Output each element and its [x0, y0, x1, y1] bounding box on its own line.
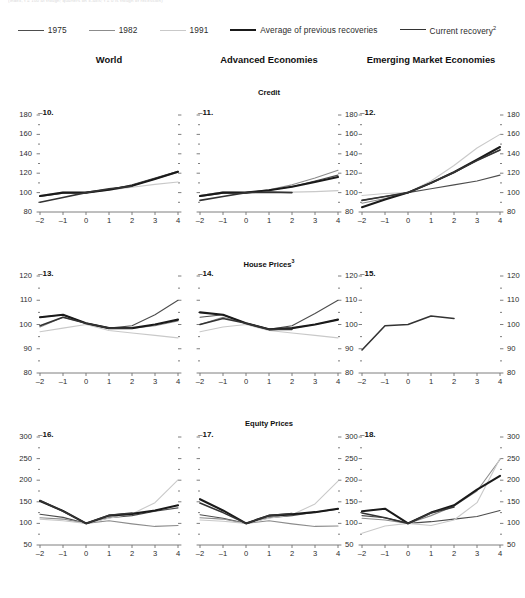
- x-axis-tick-label: 0: [401, 377, 415, 386]
- legend-item-1975: 1975: [18, 25, 67, 35]
- x-axis-tick-label: –2: [193, 216, 207, 225]
- y-axis-tick-label: 200: [507, 475, 525, 484]
- x-axis-tick-label: –1: [56, 549, 70, 558]
- x-axis-tick-label: 2: [125, 377, 139, 386]
- x-axis-tick-label: –1: [378, 216, 392, 225]
- panel-number-text: 10.: [42, 108, 53, 117]
- x-axis-tick-label: 4: [171, 549, 185, 558]
- row-title-footnote-marker: 3: [292, 258, 295, 264]
- y-axis-tick-label: 120: [507, 168, 525, 177]
- y-axis-tick-label: 100: [0, 518, 32, 527]
- y-axis-tick-label: 100: [507, 320, 525, 329]
- y-axis-tick-label: 160: [0, 129, 32, 138]
- x-axis-tick-label: 2: [285, 216, 299, 225]
- chart-panel-16: [40, 437, 178, 545]
- legend-swatch: [89, 30, 115, 31]
- panel-number-text: 13.: [42, 269, 53, 278]
- y-axis-tick-label: 100: [0, 188, 32, 197]
- y-axis-tick-label: 80: [345, 207, 377, 216]
- panel-number-16: –16.: [38, 430, 54, 439]
- y-axis-tick-label: 140: [0, 149, 32, 158]
- y-axis-tick-label: 80: [345, 368, 377, 377]
- panel-number-12: –12.: [360, 108, 376, 117]
- x-axis-tick-label: 3: [308, 549, 322, 558]
- plot-area: [362, 276, 500, 387]
- chart-panel-17: [200, 437, 338, 545]
- x-axis-tick-label: 3: [308, 377, 322, 386]
- chart-panel-15: [362, 276, 500, 373]
- x-axis-tick-label: 0: [79, 549, 93, 558]
- series-line: [40, 317, 132, 328]
- x-axis-tick-label: 4: [493, 549, 507, 558]
- x-axis-tick-label: 2: [285, 549, 299, 558]
- y-axis-tick-label: 120: [0, 168, 32, 177]
- y-axis-tick-label: 100: [507, 518, 525, 527]
- panel-number-text: 14.: [202, 269, 213, 278]
- y-axis-tick-label: 90: [507, 344, 525, 353]
- chart-source-note: (Index, t = 100 at trough; quarters on x…: [8, 0, 506, 3]
- legend-label: 1991: [190, 25, 209, 35]
- x-axis-tick-label: –2: [33, 377, 47, 386]
- y-axis-tick-label: 120: [345, 168, 377, 177]
- x-axis-tick-label: 4: [171, 377, 185, 386]
- legend-swatch: [160, 30, 186, 31]
- x-axis-tick-label: 0: [239, 216, 253, 225]
- panel-number-text: 18.: [364, 430, 375, 439]
- x-axis-tick-label: –1: [56, 377, 70, 386]
- x-axis-tick-label: –2: [355, 549, 369, 558]
- x-axis-tick-label: 1: [102, 216, 116, 225]
- x-axis-tick-label: 1: [424, 216, 438, 225]
- x-axis-tick-label: 2: [285, 377, 299, 386]
- x-axis-tick-label: –2: [355, 377, 369, 386]
- x-axis-tick-label: –1: [216, 377, 230, 386]
- x-axis-tick-label: 3: [470, 549, 484, 558]
- y-axis-tick-label: 110: [0, 295, 32, 304]
- series-line: [40, 501, 178, 523]
- legend-footnote-marker: 2: [493, 25, 496, 31]
- y-axis-tick-label: 110: [507, 295, 525, 304]
- x-axis-tick-label: 0: [79, 377, 93, 386]
- panel-number-18: –18.: [360, 430, 376, 439]
- plot-area: [200, 115, 338, 226]
- legend-item-1991: 1991: [160, 25, 209, 35]
- series-line: [200, 312, 338, 329]
- x-axis-tick-label: –1: [216, 216, 230, 225]
- y-axis-tick-label: 100: [345, 518, 377, 527]
- y-axis-tick-label: 180: [0, 110, 32, 119]
- x-axis-tick-label: 4: [493, 216, 507, 225]
- series-line: [40, 315, 178, 328]
- x-axis-tick-label: 2: [447, 549, 461, 558]
- chart-panel-11: [200, 115, 338, 212]
- x-axis-tick-label: 2: [125, 216, 139, 225]
- plot-area: [40, 115, 178, 226]
- panel-number-15: –15.: [360, 269, 376, 278]
- column-headers: WorldAdvanced EconomiesEmerging Market E…: [0, 54, 514, 70]
- y-axis-tick-label: 50: [0, 540, 32, 549]
- x-axis-tick-label: 1: [102, 377, 116, 386]
- plot-area: [362, 437, 500, 559]
- legend-label: Current recovery2: [430, 25, 497, 36]
- x-axis-tick-label: 4: [331, 216, 345, 225]
- chart-panel-13: [40, 276, 178, 373]
- plot-area: [200, 437, 338, 559]
- panel-number-13: –13.: [38, 269, 54, 278]
- x-axis-tick-label: 3: [148, 377, 162, 386]
- legend-swatch: [18, 30, 44, 31]
- x-axis-tick-label: 0: [401, 216, 415, 225]
- x-axis-tick-label: 0: [401, 549, 415, 558]
- x-axis-tick-label: 2: [447, 377, 461, 386]
- y-axis-tick-label: 180: [507, 110, 525, 119]
- y-axis-tick-label: 80: [0, 368, 32, 377]
- x-axis-tick-label: –1: [378, 377, 392, 386]
- y-axis-tick-label: 90: [0, 344, 32, 353]
- legend-item-current-recovery: Current recovery2: [400, 25, 497, 36]
- x-axis-tick-label: –2: [193, 377, 207, 386]
- plot-area: [40, 437, 178, 559]
- x-axis-tick-label: –2: [33, 216, 47, 225]
- y-axis-tick-label: 160: [507, 129, 525, 138]
- y-axis-tick-label: 250: [345, 454, 377, 463]
- y-axis-tick-label: 80: [507, 207, 525, 216]
- y-axis-tick-label: 80: [507, 368, 525, 377]
- x-axis-tick-label: 4: [331, 377, 345, 386]
- x-axis-tick-label: 3: [470, 216, 484, 225]
